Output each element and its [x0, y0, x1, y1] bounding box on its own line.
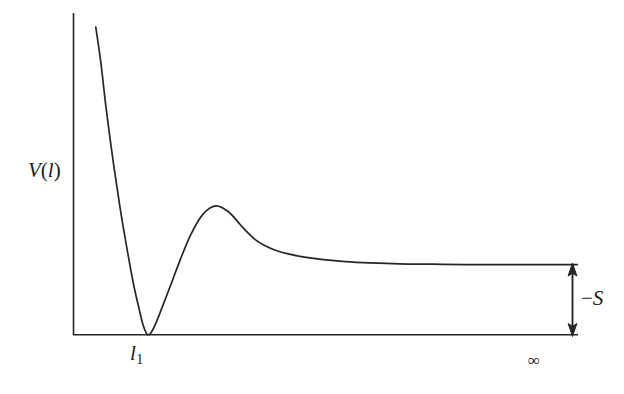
- x-tick-label-l1-subscript: 1: [136, 352, 143, 367]
- y-axis-label-arg: (l): [41, 158, 61, 182]
- s-bracket-symbol: S: [593, 286, 604, 310]
- plot-canvas: [0, 0, 624, 394]
- potential-energy-figure: V(l) l1 ∞ −S: [0, 0, 624, 394]
- y-axis-label-v: V: [28, 158, 41, 182]
- x-tick-label-infinity: ∞: [528, 352, 540, 369]
- x-tick-label-l1-base: l: [130, 341, 136, 365]
- s-bracket-arrow: [568, 263, 577, 337]
- y-axis-label: V(l): [28, 160, 61, 181]
- x-tick-label-l1: l1: [130, 343, 143, 367]
- potential-curve: [96, 27, 578, 335]
- s-bracket-label: −S: [581, 288, 603, 309]
- s-bracket-minus: −: [581, 286, 593, 310]
